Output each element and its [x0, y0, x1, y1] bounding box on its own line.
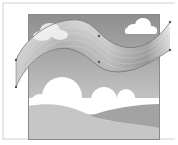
- anchor-point[interactable]: [98, 61, 100, 63]
- anchor-point[interactable]: [169, 21, 171, 23]
- anchor-point[interactable]: [15, 86, 17, 88]
- artboard-canvas[interactable]: [0, 0, 178, 145]
- anchor-point[interactable]: [169, 49, 171, 51]
- anchor-point[interactable]: [98, 35, 100, 37]
- artwork-svg: [0, 0, 178, 145]
- anchor-point[interactable]: [15, 59, 17, 61]
